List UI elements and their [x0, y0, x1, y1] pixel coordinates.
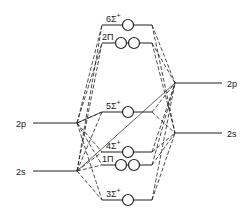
connector-right — [152, 133, 175, 165]
mo-label-sup: + — [117, 187, 121, 194]
mo-diagram: 2p2s2p2s6Σ+2Π5Σ+4Σ+1Π3Σ+ — [0, 0, 252, 222]
orbital-circle — [129, 38, 140, 49]
connector-left — [77, 112, 102, 171]
left-level-label: 2p — [16, 119, 26, 129]
mo-label-4sigma: 4Σ+ — [106, 139, 121, 151]
mo-label-3sigma: 3Σ+ — [106, 187, 121, 199]
connector-right — [152, 133, 175, 200]
connector-right — [152, 83, 175, 165]
connector-right — [152, 43, 175, 83]
connector-left — [77, 123, 102, 165]
orbital-circle — [123, 147, 134, 158]
mo-label-1pi: 1Π — [102, 154, 114, 164]
mo-label-sup: + — [117, 12, 121, 19]
orbital-circle — [116, 160, 127, 171]
mo-label-sup: + — [117, 99, 121, 106]
mo-label-2pi: 2Π — [102, 32, 114, 42]
orbital-circle — [129, 160, 140, 171]
mo-label-sup: + — [117, 139, 121, 146]
connector-right — [152, 43, 175, 133]
connector-left — [77, 123, 102, 152]
mo-label-6sigma: 6Σ+ — [106, 12, 121, 24]
connector-right — [152, 25, 175, 83]
energy-levels — [33, 20, 222, 206]
mo-label-5sigma: 5Σ+ — [106, 99, 121, 111]
orbital-circle — [123, 20, 134, 31]
orbital-circle — [116, 38, 127, 49]
right-level-label: 2p — [227, 79, 237, 89]
right-level-label: 2s — [227, 129, 237, 139]
connector-left — [77, 171, 102, 200]
orbital-circle — [123, 195, 134, 206]
connector-left — [77, 25, 102, 171]
connector-left — [77, 43, 102, 123]
orbital-circle — [123, 107, 134, 118]
left-level-label: 2s — [16, 167, 26, 177]
